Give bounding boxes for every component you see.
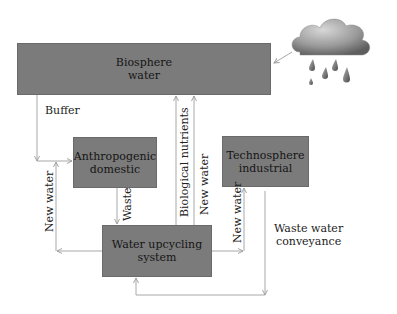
biosphere-label-line2: water [116,69,172,82]
rain-cloud-icon [292,19,370,85]
technosphere-label-line2: industrial [227,162,305,175]
anthropogenic-domestic-node: Anthropogenic domestic [73,137,157,188]
waste-water-line1: Waste water [274,222,343,235]
waste-water-conveyance-label: Waste water conveyance [274,222,343,248]
biosphere-water-node: Biosphere water [17,43,271,95]
anthropogenic-label-line1: Anthropogenic [74,150,156,163]
technosphere-industrial-node: Technosphere industrial [222,136,309,187]
new-water-center-label: New water [198,154,211,215]
waste-label: Waste [121,188,134,221]
biosphere-label-line1: Biosphere [116,56,172,69]
new-water-left-label: New water [43,171,56,232]
biological-nutrients-label: Biological nutrients [178,107,191,217]
water-upcycling-system-node: Water upcycling system [102,225,212,277]
new-water-right-label: New water [231,182,244,243]
water-cycle-diagram: Biosphere water Anthropogenic domestic T… [0,0,397,314]
upcycling-label: Water upcycling system [103,238,211,264]
buffer-label: Buffer [45,104,80,117]
technosphere-label-line1: Technosphere [227,149,305,162]
anthropogenic-label-line2: domestic [74,163,156,176]
waste-water-line2: conveyance [274,235,343,248]
